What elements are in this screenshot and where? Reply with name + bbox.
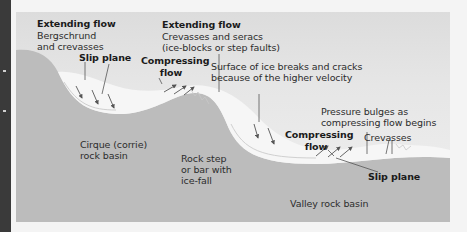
edge-mark	[3, 110, 6, 112]
label-rock-step: Rock step	[181, 153, 226, 165]
label-compressing-flow-valley: Compressing flow	[285, 129, 347, 152]
label-compressing-flow-valley-line1: Compressing	[285, 129, 347, 141]
glacier-diagram: Extending flow Bergschrund and crevasses…	[16, 12, 450, 222]
label-bergschrund-crevasses: and crevasses	[37, 41, 104, 53]
label-pressure-bulges: Pressure bulges as	[321, 106, 408, 118]
label-slip-plane-valley: Slip plane	[368, 171, 420, 183]
edge-mark	[3, 70, 6, 72]
label-rock-bar: or bar with	[181, 164, 232, 176]
label-surface-breaks: Surface of ice breaks and cracks	[211, 61, 362, 73]
page-edge-strip	[0, 0, 11, 232]
label-compressing-flow-step-line2: flow	[141, 67, 201, 79]
label-crevasses-valley: Crevasses	[364, 132, 411, 144]
label-higher-velocity: because of the higher velocity	[211, 72, 352, 84]
label-extending-flow-cirque: Extending flow	[37, 18, 116, 30]
label-slip-plane-cirque: Slip plane	[79, 52, 131, 64]
label-compressing-flow-valley-line2: flow	[285, 141, 347, 153]
label-compressing-flow-step: Compressing flow	[141, 55, 201, 78]
label-cirque-rock-basin: rock basin	[80, 150, 128, 162]
label-valley-rock-basin: Valley rock basin	[290, 198, 368, 210]
label-crevasses-seracs: Crevasses and seracs	[162, 31, 263, 43]
label-ice-blocks: (ice-blocks or step faults)	[162, 42, 280, 54]
label-ice-fall: ice-fall	[181, 175, 212, 187]
label-bergschrund: Bergschrund	[37, 30, 96, 42]
label-compressing-flow-begins: compressing flow begins	[321, 117, 436, 129]
label-compressing-flow-step-line1: Compressing	[141, 55, 201, 67]
label-extending-flow-icefall: Extending flow	[162, 19, 241, 31]
label-cirque: Cirque (corrie)	[80, 139, 147, 151]
